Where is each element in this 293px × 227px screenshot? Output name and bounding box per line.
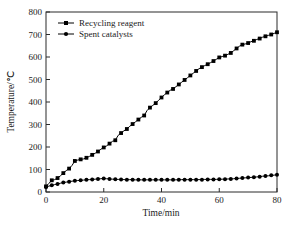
data-point-square — [269, 33, 273, 37]
x-tick-label: 0 — [44, 195, 49, 205]
data-point-circle — [102, 177, 106, 181]
data-point-square — [206, 62, 210, 66]
data-point-circle — [258, 175, 262, 179]
data-point-circle — [119, 177, 123, 181]
data-point-square — [148, 106, 152, 110]
data-point-square — [200, 65, 204, 69]
data-point-square — [240, 43, 244, 47]
data-point-square — [125, 127, 129, 131]
y-tick-label: 800 — [29, 7, 43, 17]
y-tick-label: 0 — [38, 187, 43, 197]
x-tick-label: 80 — [273, 195, 283, 205]
data-point-square — [119, 131, 123, 135]
data-point-square — [183, 78, 187, 82]
data-point-circle — [136, 178, 140, 182]
y-tick-label: 500 — [29, 75, 43, 85]
data-point-square — [177, 83, 181, 87]
data-point-square — [67, 167, 71, 171]
data-point-square — [137, 118, 141, 122]
data-point-square — [50, 178, 54, 182]
data-point-square — [235, 47, 239, 51]
x-tick-label: 20 — [99, 195, 109, 205]
data-point-circle — [217, 177, 221, 181]
data-point-square — [212, 59, 216, 63]
data-point-circle — [269, 173, 273, 177]
data-point-circle — [177, 178, 181, 182]
data-point-circle — [96, 177, 100, 181]
y-tick-label: 700 — [29, 30, 43, 40]
data-point-circle — [235, 177, 239, 181]
data-point-circle — [229, 177, 233, 181]
data-point-circle — [160, 178, 164, 182]
legend-marker-circle — [64, 32, 68, 36]
data-point-circle — [252, 175, 256, 179]
data-point-square — [246, 41, 250, 45]
data-point-circle — [275, 173, 279, 177]
data-point-circle — [73, 179, 77, 183]
data-point-circle — [206, 177, 210, 181]
figure-container: 0100200300400500600700800 020406080 Recy… — [0, 0, 293, 227]
data-point-circle — [79, 178, 83, 182]
y-tick-label: 200 — [29, 142, 43, 152]
y-tick-label: 600 — [29, 52, 43, 62]
data-point-square — [229, 51, 233, 55]
data-point-square — [252, 39, 256, 43]
data-point-square — [188, 74, 192, 78]
x-tick-label: 40 — [157, 195, 167, 205]
data-point-circle — [44, 185, 48, 189]
legend-label-1: Recycling reagent — [79, 18, 145, 28]
data-point-square — [108, 142, 112, 146]
data-point-circle — [131, 178, 135, 182]
chart-background — [0, 0, 293, 227]
data-point-circle — [56, 182, 60, 186]
data-point-circle — [171, 178, 175, 182]
data-point-circle — [200, 178, 204, 182]
data-point-square — [142, 114, 146, 118]
data-point-square — [131, 122, 135, 126]
legend-marker-square — [64, 21, 68, 25]
data-point-circle — [194, 178, 198, 182]
data-point-circle — [263, 174, 267, 178]
data-point-circle — [223, 177, 227, 181]
data-point-square — [90, 153, 94, 157]
data-point-square — [102, 146, 106, 150]
data-point-circle — [50, 183, 54, 187]
x-axis-title: Time/min — [142, 208, 179, 218]
data-point-circle — [61, 181, 65, 185]
data-point-square — [160, 96, 164, 100]
legend-label-2: Spent catalysts — [79, 29, 133, 39]
data-point-circle — [148, 178, 152, 182]
data-point-square — [217, 56, 221, 60]
data-point-square — [61, 171, 65, 175]
data-point-circle — [165, 178, 169, 182]
data-point-square — [85, 156, 89, 160]
data-point-circle — [183, 178, 187, 182]
data-point-square — [194, 69, 198, 73]
data-point-square — [275, 30, 279, 34]
data-point-square — [264, 34, 268, 38]
data-point-circle — [188, 178, 192, 182]
data-point-square — [258, 37, 262, 41]
data-point-square — [171, 87, 175, 91]
x-tick-label: 60 — [215, 195, 225, 205]
data-point-circle — [125, 178, 129, 182]
data-point-circle — [154, 178, 158, 182]
data-point-circle — [246, 176, 250, 180]
data-point-square — [73, 159, 77, 163]
data-point-square — [79, 157, 83, 161]
y-tick-label: 300 — [29, 120, 43, 130]
y-tick-label: 400 — [29, 97, 43, 107]
data-point-circle — [84, 178, 88, 182]
data-point-circle — [142, 178, 146, 182]
data-point-circle — [113, 177, 117, 181]
data-point-circle — [211, 177, 215, 181]
data-point-square — [223, 54, 227, 58]
data-point-circle — [90, 177, 94, 181]
data-point-square — [56, 176, 60, 180]
data-point-circle — [240, 176, 244, 180]
y-tick-label: 100 — [29, 165, 43, 175]
data-point-circle — [67, 180, 71, 184]
data-point-square — [154, 101, 158, 105]
data-point-square — [113, 138, 117, 142]
y-axis-title: Temperature/℃ — [6, 71, 16, 133]
